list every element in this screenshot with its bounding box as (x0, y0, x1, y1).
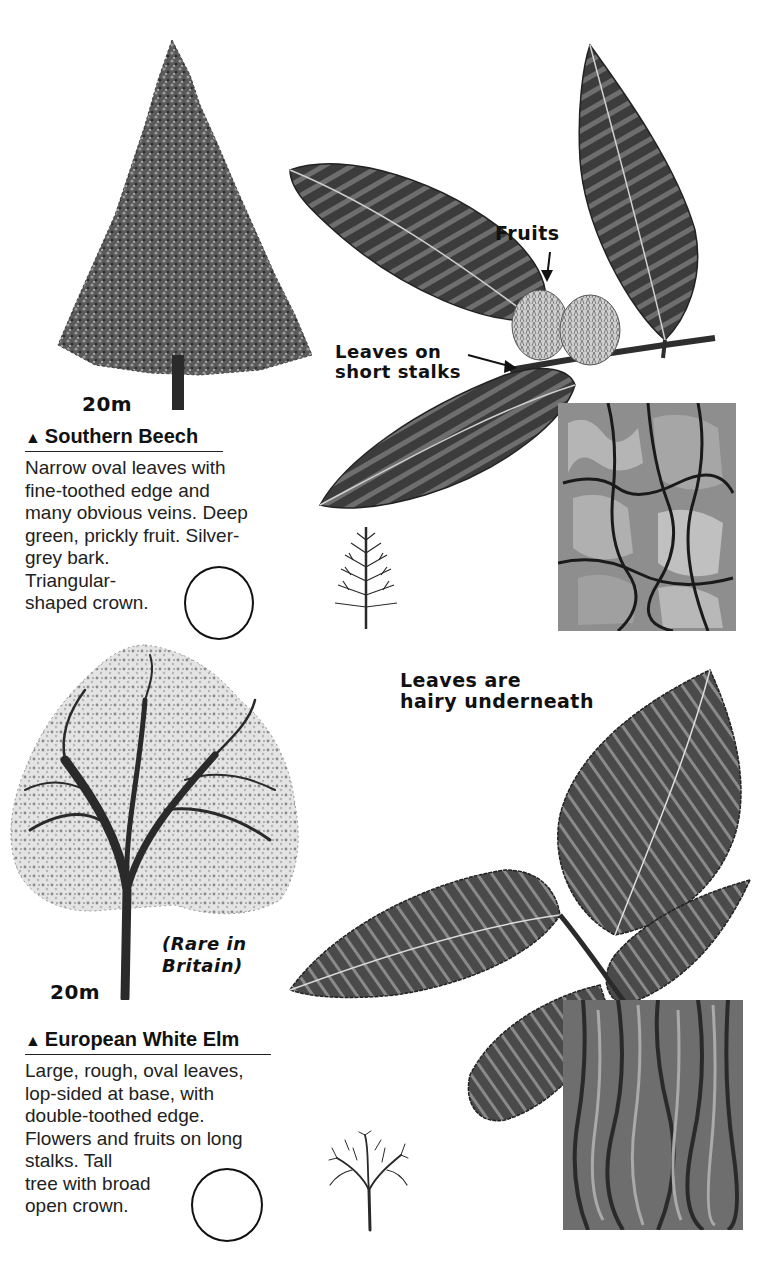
spotted-checkbox-circle-icon[interactable] (191, 1168, 263, 1242)
european-white-elm-height-label: 20m (50, 980, 100, 1004)
southern-beech-title: ▲Southern Beech (25, 425, 223, 452)
triangle-marker-icon: ▲ (25, 1032, 41, 1049)
annotation-line: short stalks (335, 362, 461, 382)
southern-beech-bark-illustration (558, 403, 736, 631)
description-line: fine-toothed edge and (25, 480, 315, 503)
description-line: double-toothed edge. (25, 1105, 315, 1128)
rarity-note: (Rare in Britain) (162, 933, 247, 977)
description-line: grey bark. (25, 547, 315, 570)
description-line: lop-sided at base, with (25, 1083, 315, 1106)
leaves-on-short-stalks-annotation: Leaves on short stalks (335, 342, 461, 382)
description-line: open crown. (25, 1195, 315, 1218)
european-white-elm-tree-illustration (5, 640, 305, 1000)
southern-beech-description: Narrow oval leaves with fine-toothed edg… (25, 457, 315, 615)
description-line: Large, rough, oval leaves, (25, 1060, 315, 1083)
european-white-elm-title: ▲European White Elm (25, 1028, 271, 1055)
description-line: green, prickly fruit. Silver- (25, 525, 315, 548)
description-line: many obvious veins. Deep (25, 502, 315, 525)
description-line: stalks. Tall (25, 1150, 315, 1173)
triangle-marker-icon: ▲ (25, 429, 41, 446)
annotation-line: Leaves on (335, 342, 461, 362)
european-white-elm-description: Large, rough, oval leaves, lop-sided at … (25, 1060, 315, 1218)
european-white-elm-bark-illustration (563, 1000, 743, 1230)
description-line: Flowers and fruits on long (25, 1128, 315, 1151)
description-line: tree with broad (25, 1173, 315, 1196)
description-line: Triangular- (25, 570, 315, 593)
fruits-annotation: Fruits (495, 222, 560, 244)
description-line: Narrow oval leaves with (25, 457, 315, 480)
rarity-note-line: Britain) (162, 955, 247, 977)
southern-beech-tree-illustration (50, 35, 320, 410)
spotted-checkbox-circle-icon[interactable] (184, 566, 254, 640)
rarity-note-line: (Rare in (162, 933, 247, 955)
european-white-elm-name: European White Elm (45, 1028, 239, 1050)
southern-beech-height-label: 20m (82, 392, 132, 416)
southern-beech-name: Southern Beech (45, 425, 198, 447)
southern-beech-winter-silhouette-icon (333, 525, 399, 630)
european-white-elm-winter-silhouette-icon (327, 1130, 409, 1232)
description-line: shaped crown. (25, 592, 315, 615)
